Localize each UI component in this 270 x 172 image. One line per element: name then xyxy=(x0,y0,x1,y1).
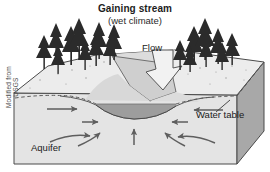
aquifer-label: Aquifer xyxy=(31,142,61,153)
figure-subtitle: (wet climate) xyxy=(0,15,270,26)
gaining-stream-block-diagram: Gaining stream (wet climate) Flow Water … xyxy=(0,0,270,172)
water-table-label: Water table xyxy=(196,109,244,120)
source-credit: Modified from USGS xyxy=(5,58,19,116)
figure-title: Gaining stream xyxy=(0,3,270,14)
flow-label: Flow xyxy=(142,42,162,53)
